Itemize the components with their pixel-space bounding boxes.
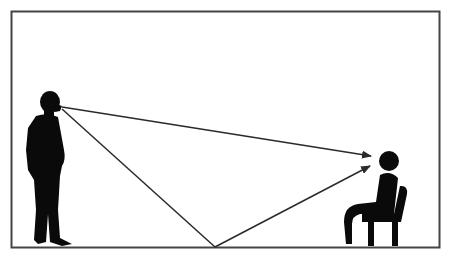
incident-line	[62, 109, 215, 247]
standing-person-figure	[26, 91, 72, 246]
diagram-canvas	[0, 0, 451, 257]
direct-sight-arrow	[62, 107, 371, 156]
diagram-svg	[0, 0, 451, 257]
seated-person-figure	[344, 151, 407, 246]
